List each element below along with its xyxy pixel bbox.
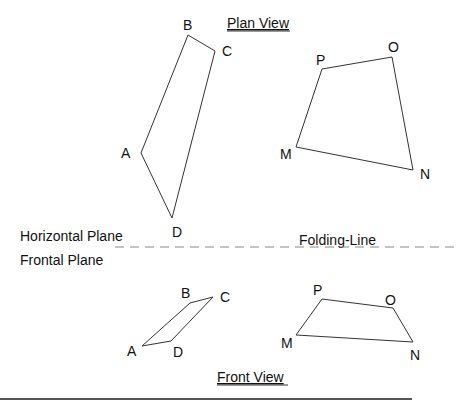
front-label-n: N [410,347,420,363]
plan-label-o: O [388,39,399,55]
plan-label-a: A [121,145,131,161]
plan-abcd-shape [141,35,215,218]
front-label-b: B [181,285,190,301]
plan-label-n: N [420,166,430,182]
plan-mnop-shape [296,57,413,170]
plan-view-title: Plan View [227,15,290,31]
plan-label-m: M [280,146,292,162]
plan-label-c: C [222,43,232,59]
plan-label-p: P [316,52,325,68]
front-label-o: O [385,292,396,308]
horizontal-plane-label: Horizontal Plane [20,228,123,244]
frontal-plane-label: Frontal Plane [20,252,103,268]
orthographic-projection-diagram: Plan View A B C D M N O P Horizontal Pla… [0,0,473,400]
folding-line-label: Folding-Line [299,232,376,248]
front-label-a: A [127,343,137,359]
front-label-m: M [281,335,293,351]
front-abcd-shape [142,297,213,346]
front-view-title: Front View [217,369,285,385]
plan-label-b: B [183,17,192,33]
front-label-p: P [313,282,322,298]
front-label-d: D [173,344,183,360]
front-label-c: C [220,289,230,305]
plan-label-d: D [172,224,182,240]
